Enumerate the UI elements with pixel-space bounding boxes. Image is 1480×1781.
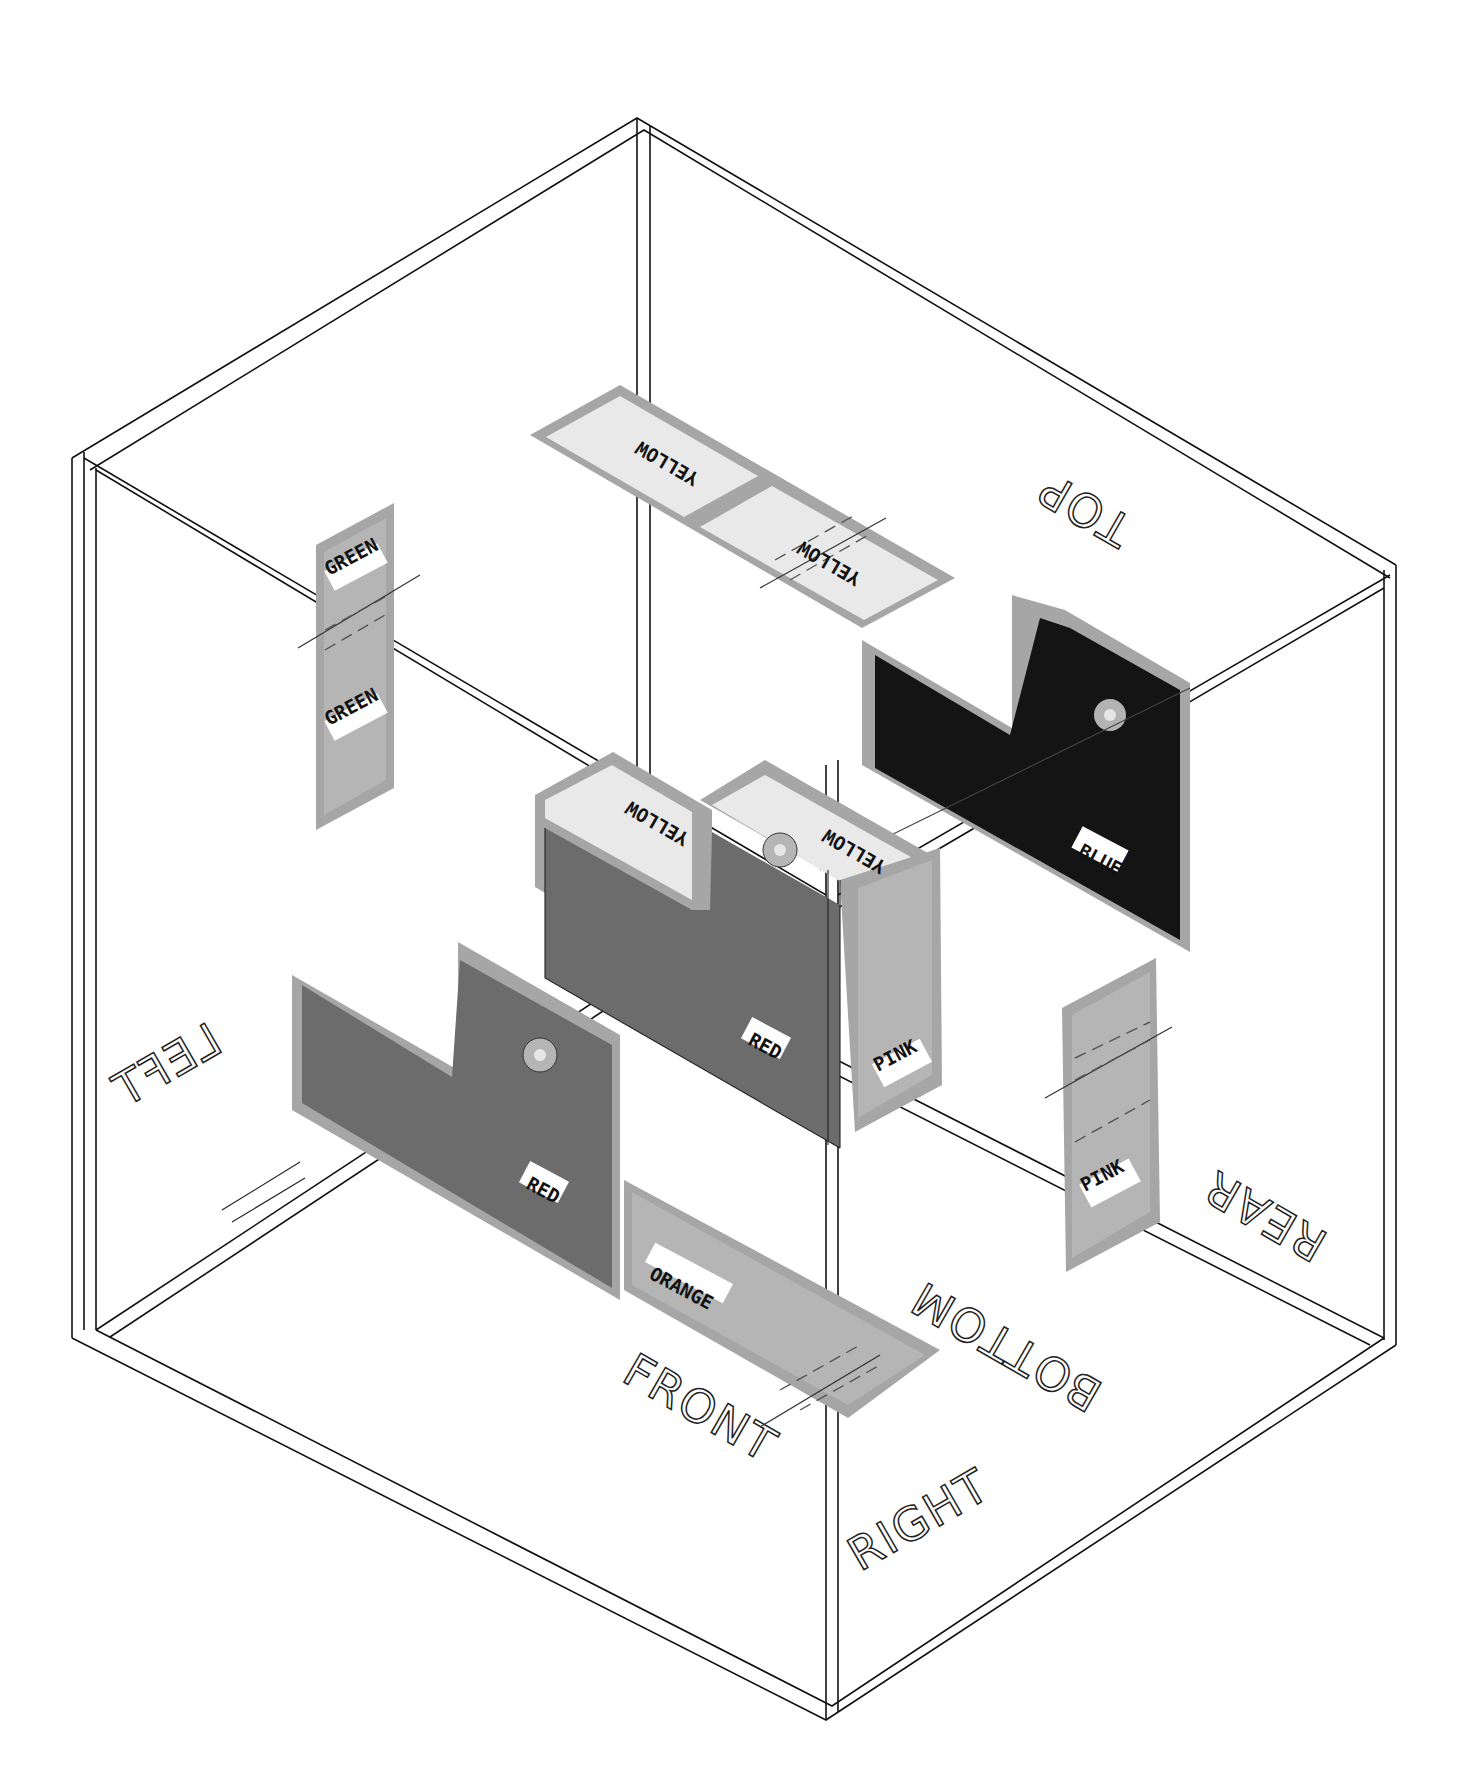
piece-yellow-strip: YELLOW YELLOW — [530, 385, 955, 628]
piece-red-plate: RED — [222, 942, 620, 1300]
face-label-left: LEFT — [103, 1013, 231, 1118]
face-label-rear: REAR — [1194, 1159, 1336, 1272]
piece-pink-strip: PINK — [1045, 958, 1172, 1272]
face-label-top: TOP — [1029, 461, 1142, 557]
piece-green-strip: GREEN GREEN — [298, 503, 420, 830]
face-label-right: RIGHT — [839, 1458, 999, 1582]
isometric-box-diagram: TOP LEFT FRONT RIGHT REAR BOTTOM YELLOW … — [0, 0, 1480, 1781]
